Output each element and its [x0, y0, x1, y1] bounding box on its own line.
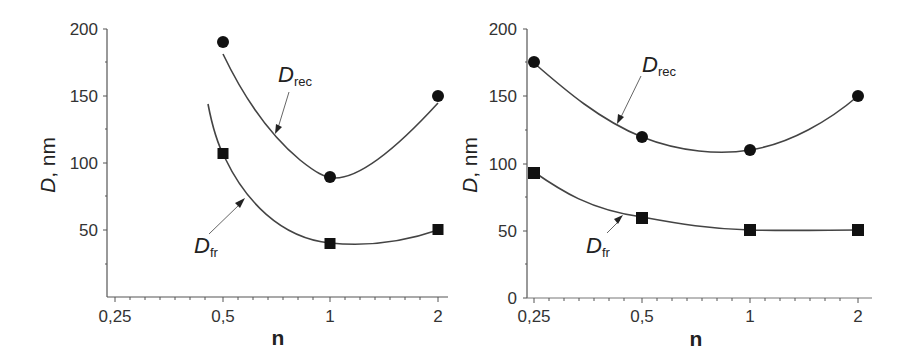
right-dfr-curve: [534, 172, 858, 230]
right-y-tick-label: 200: [489, 20, 517, 39]
right-x-tick-label: 0,5: [630, 307, 654, 326]
left-drec-marker: [217, 36, 229, 48]
left-drec-marker: [324, 171, 336, 183]
left-x-tick-label: 0,5: [211, 307, 235, 326]
right-drec-marker: [852, 90, 864, 102]
right-dfr-marker: [744, 224, 756, 236]
right-chart: 200 150 100 50 0 0,25 0,5 1 2 n D, nm Dr…: [458, 20, 872, 350]
left-x-tick-label: 0,25: [98, 307, 131, 326]
right-x-ticks: [534, 298, 858, 303]
right-x-tick-label: 0,25: [517, 307, 550, 326]
svg-text:D, nm: D, nm: [36, 137, 59, 193]
right-x-tick-label: 1: [745, 307, 754, 326]
left-dfr-marker: [325, 238, 336, 249]
right-drec-marker: [636, 131, 648, 143]
right-y-tick-label: 50: [498, 222, 517, 241]
left-dfr-marker: [218, 148, 229, 159]
left-drec-marker: [432, 90, 444, 102]
arrow-icon: [617, 114, 624, 124]
left-x-ticks: [115, 297, 438, 302]
left-chart: 200 150 100 50 0,25 0,5 1 2 n D, nm Drec: [36, 20, 448, 349]
left-x-tick-label: 2: [433, 307, 442, 326]
right-drec-curve: [534, 63, 858, 152]
left-dfr-label: Dfr: [194, 233, 219, 260]
right-y-tick-label: 100: [489, 155, 517, 174]
right-drec-label: Drec: [642, 52, 676, 79]
right-x-tick-label: 2: [853, 307, 862, 326]
right-drec-pointer: [621, 76, 641, 117]
left-drec-curve: [223, 54, 438, 178]
right-y-tick-label: 0: [508, 289, 517, 308]
arrow-icon: [614, 215, 623, 224]
right-x-axis-title: n: [690, 327, 703, 350]
left-dfr-pointer: [209, 204, 240, 234]
left-x-axis-title: n: [272, 326, 285, 349]
arrow-icon: [275, 124, 282, 134]
right-y-tick-label: 150: [489, 87, 517, 106]
right-drec-marker: [528, 56, 540, 68]
right-y-axis-title: D, nm: [458, 137, 481, 193]
left-y-tick-label: 150: [70, 87, 98, 106]
left-y-tick-label: 200: [70, 20, 98, 39]
left-dfr-marker: [433, 224, 444, 235]
left-y-tick-label: 100: [70, 154, 98, 173]
left-x-tick-label: 1: [325, 307, 334, 326]
left-drec-label: Drec: [278, 62, 312, 89]
svg-text:D, nm: D, nm: [458, 137, 481, 193]
left-y-axis-title: D, nm: [36, 137, 59, 193]
right-drec-marker: [744, 144, 756, 156]
left-drec-pointer: [278, 92, 289, 128]
left-dfr-curve: [208, 104, 438, 244]
left-y-tick-label: 50: [79, 221, 98, 240]
right-dfr-marker: [636, 212, 648, 224]
right-dfr-label: Dfr: [586, 233, 611, 260]
right-dfr-marker: [852, 224, 864, 236]
arrow-icon: [235, 198, 245, 208]
right-dfr-marker: [528, 167, 540, 179]
figure: 200 150 100 50 0,25 0,5 1 2 n D, nm Drec: [0, 0, 901, 363]
